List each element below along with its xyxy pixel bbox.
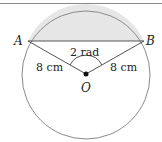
radius-left-label: 8 cm [36,61,64,74]
shaded-segment [28,4,144,41]
angle-label: 2 rad [70,46,99,59]
center-dot [84,72,89,77]
label-b: B [145,34,155,48]
radius-right-label: 8 cm [110,61,138,74]
label-o: O [81,81,91,95]
circle-diagram: A B O 2 rad 8 cm 8 cm [0,0,162,142]
label-a: A [13,34,23,48]
